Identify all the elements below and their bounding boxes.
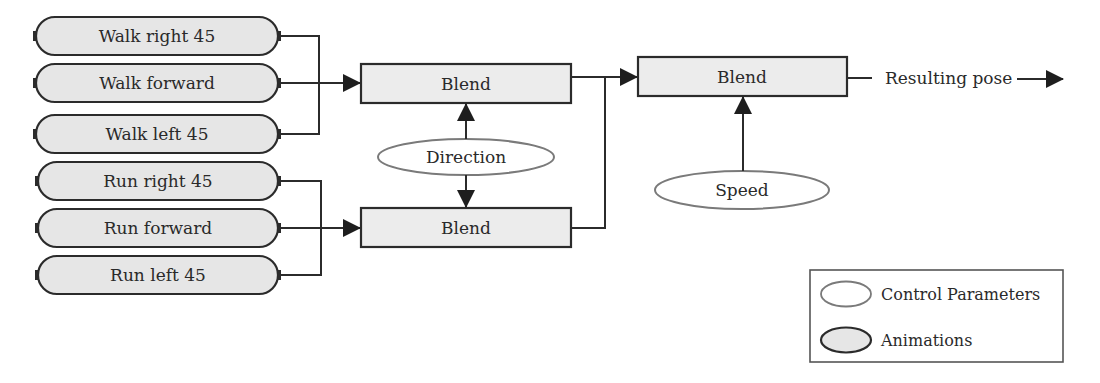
animation-run-left-45: Run left 45 xyxy=(35,256,281,294)
blend-node-run: Blend xyxy=(361,208,571,247)
control-label: Speed xyxy=(715,180,769,200)
animation-run-right-45: Run right 45 xyxy=(35,162,281,200)
legend-item-control-parameters: Control Parameters xyxy=(821,282,1040,307)
blend-label: Blend xyxy=(717,67,767,87)
legend-item-animations: Animations xyxy=(821,328,972,353)
control-parameter-direction: Direction xyxy=(378,139,554,175)
legend-label: Control Parameters xyxy=(881,285,1040,304)
animation-label: Walk forward xyxy=(99,73,215,93)
animation-walk-forward: Walk forward xyxy=(33,64,281,102)
animation-walk-left-45: Walk left 45 xyxy=(33,115,281,153)
animation-label: Walk right 45 xyxy=(99,26,216,46)
blend-node-final: Blend xyxy=(638,57,847,96)
walk-connector xyxy=(281,36,360,134)
legend-label: Animations xyxy=(880,331,972,350)
animation-label: Run right 45 xyxy=(103,171,212,191)
control-parameter-speed: Speed xyxy=(655,171,829,209)
animation-label: Walk left 45 xyxy=(106,124,209,144)
animation-label: Run left 45 xyxy=(110,265,206,285)
animation-swatch-icon xyxy=(821,328,871,353)
blend-label: Blend xyxy=(441,218,491,238)
run-connector xyxy=(281,181,360,275)
control-parameter-swatch-icon xyxy=(821,282,871,307)
blend-label: Blend xyxy=(441,74,491,94)
control-label: Direction xyxy=(426,147,506,167)
blend-merge-connector xyxy=(571,77,637,228)
output-label: Resulting pose xyxy=(885,68,1012,88)
animation-label: Run forward xyxy=(104,218,213,238)
legend: Control Parameters Animations xyxy=(810,270,1063,362)
animation-walk-right-45: Walk right 45 xyxy=(33,17,281,55)
animation-run-forward: Run forward xyxy=(35,209,281,247)
blend-node-walk: Blend xyxy=(361,64,571,103)
